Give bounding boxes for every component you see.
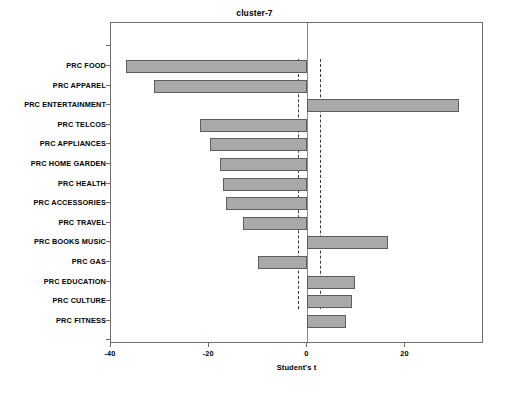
- bar: [307, 276, 355, 289]
- y-axis-tick-mark: [106, 65, 110, 66]
- bar: [226, 197, 307, 210]
- y-axis-tick-label: PRC BOOKS MUSIC: [0, 237, 106, 246]
- x-axis-tick-label: 20: [384, 349, 424, 358]
- significance-threshold-line-1: [320, 59, 321, 309]
- y-axis-tick-label: PRC TELCOS: [0, 120, 106, 129]
- y-axis-tick-mark: [106, 320, 110, 321]
- y-axis-tick-mark: [106, 300, 110, 301]
- bar: [307, 99, 459, 112]
- plot-area: [110, 22, 483, 343]
- x-axis-tick-mark: [306, 343, 307, 347]
- y-axis-tick-label: PRC GAS: [0, 257, 106, 266]
- x-axis-title: Student's t: [110, 363, 483, 372]
- x-axis-tick-label: 0: [286, 349, 326, 358]
- y-axis-tick-mark: [106, 261, 110, 262]
- y-axis-tick-mark: [106, 104, 110, 105]
- bar: [126, 60, 308, 73]
- y-axis-tick-label: PRC HOME GARDEN: [0, 159, 106, 168]
- y-axis-tick-mark: [106, 85, 110, 86]
- bar: [223, 178, 307, 191]
- y-axis-tick-label: PRC ACCESSORIES: [0, 198, 106, 207]
- y-axis-tick-mark: [106, 163, 110, 164]
- y-axis-tick-label: PRC APPLIANCES: [0, 139, 106, 148]
- y-axis-tick-label: PRC HEALTH: [0, 179, 106, 188]
- bar: [258, 256, 307, 269]
- bar: [307, 295, 352, 308]
- y-axis-tick-label: PRC APPAREL: [0, 81, 106, 90]
- y-axis-tick-label: PRC CULTURE: [0, 296, 106, 305]
- bar: [200, 119, 307, 132]
- y-axis-tick-label: PRC TRAVEL: [0, 218, 106, 227]
- x-axis-tick-label: -20: [188, 349, 228, 358]
- x-axis-tick-mark: [404, 343, 405, 347]
- bar: [307, 315, 345, 328]
- bar: [307, 236, 388, 249]
- y-axis-tick-mark: [106, 45, 110, 46]
- chart-figure: cluster-7 Student's t PRC FOODPRC APPARE…: [0, 0, 509, 394]
- bar: [220, 158, 307, 171]
- y-axis-tick-label: PRC FITNESS: [0, 316, 106, 325]
- y-axis-tick-mark: [106, 143, 110, 144]
- zero-reference-line: [307, 23, 308, 342]
- chart-title: cluster-7: [0, 8, 509, 18]
- y-axis-tick-label: PRC EDUCATION: [0, 277, 106, 286]
- y-axis-tick-mark: [106, 281, 110, 282]
- y-axis-tick-mark: [106, 124, 110, 125]
- y-axis-tick-mark: [106, 339, 110, 340]
- y-axis-tick-mark: [106, 202, 110, 203]
- bar: [243, 217, 307, 230]
- y-axis-tick-mark: [106, 183, 110, 184]
- y-axis-tick-mark: [106, 241, 110, 242]
- x-axis-tick-mark: [110, 343, 111, 347]
- bar: [154, 80, 307, 93]
- x-axis-tick-mark: [208, 343, 209, 347]
- bar: [210, 138, 307, 151]
- y-axis-tick-label: PRC ENTERTAINMENT: [0, 100, 106, 109]
- y-axis-tick-label: PRC FOOD: [0, 61, 106, 70]
- y-axis-tick-mark: [106, 222, 110, 223]
- x-axis-tick-label: -40: [90, 349, 130, 358]
